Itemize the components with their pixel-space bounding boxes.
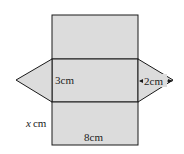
top-face	[52, 15, 138, 59]
length-label: xcm	[25, 117, 47, 129]
left-triangle-face	[16, 59, 52, 102]
prism-net-diagram: 3cm 2cm xcm 8cm	[0, 0, 184, 154]
length-variable: x	[25, 117, 31, 129]
length-unit: cm	[33, 117, 47, 129]
triangle-height-label: 2cm	[144, 75, 163, 87]
height-label: 3cm	[55, 74, 74, 86]
width-label: 8cm	[84, 131, 103, 143]
